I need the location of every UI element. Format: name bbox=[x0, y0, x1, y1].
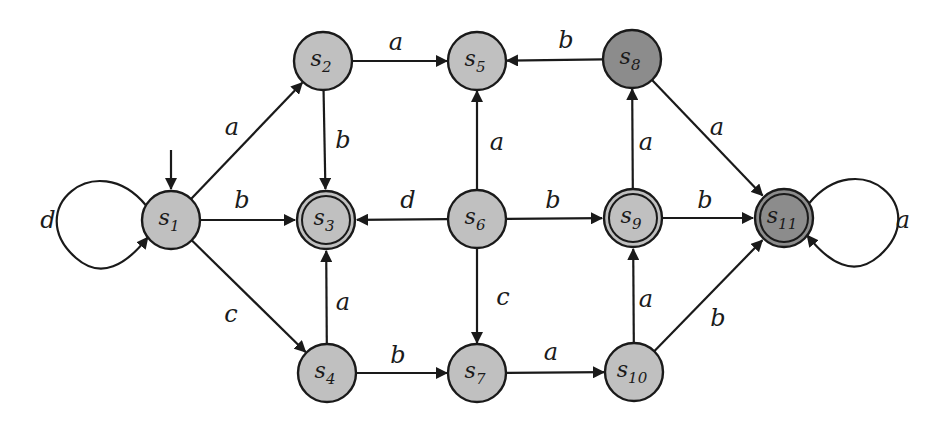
state-s9: s9 bbox=[604, 189, 662, 247]
transition-label-s10-s11: b bbox=[710, 304, 725, 332]
transition-s9-s8 bbox=[632, 89, 633, 189]
transition-s7-s10 bbox=[506, 372, 604, 373]
transition-s6-s9 bbox=[506, 218, 602, 219]
transition-label-s8-s11: a bbox=[710, 113, 724, 141]
transition-s8-s5 bbox=[507, 59, 603, 60]
state-s1: s1 bbox=[142, 191, 200, 249]
transition-label-s11-s11: a bbox=[896, 206, 910, 234]
transition-label-s4-s3: a bbox=[336, 288, 350, 316]
transition-label-s1-s2: a bbox=[225, 113, 239, 141]
state-s6: s6 bbox=[448, 190, 506, 248]
transition-label-s7-s10: a bbox=[544, 338, 558, 366]
transition-label-s8-s5: b bbox=[558, 26, 573, 54]
state-s2: s2 bbox=[294, 32, 352, 90]
transition-label-s9-s11: b bbox=[697, 186, 712, 214]
state-s8: s8 bbox=[603, 30, 661, 88]
states-layer: s1s2s3s4s5s6s7s8s9s10s11 bbox=[142, 30, 813, 402]
transition-label-s6-s3: d bbox=[400, 186, 415, 214]
transition-label-s9-s8: a bbox=[639, 128, 653, 156]
transition-label-s6-s7: c bbox=[496, 283, 509, 311]
transition-s10-s11 bbox=[654, 240, 762, 351]
transition-label-s4-s7: b bbox=[390, 341, 405, 369]
transition-s6-s3 bbox=[357, 219, 448, 220]
transition-s1-s2 bbox=[191, 83, 302, 199]
transition-s8-s11 bbox=[652, 80, 763, 196]
transition-label-s6-s5: a bbox=[490, 128, 504, 156]
transition-s4-s3 bbox=[326, 251, 327, 344]
transition-s1-s4 bbox=[192, 240, 306, 352]
transition-label-s10-s9: a bbox=[639, 285, 653, 313]
automaton-diagram: s1s2s3s4s5s6s7s8s9s10s11 abcdababadbcaba… bbox=[0, 0, 949, 427]
transition-label-s2-s3: b bbox=[335, 126, 350, 154]
state-s4: s4 bbox=[298, 344, 356, 402]
state-s10: s10 bbox=[605, 343, 663, 401]
state-s5: s5 bbox=[448, 32, 506, 90]
transition-s11-s11 bbox=[807, 179, 898, 267]
state-s3: s3 bbox=[297, 191, 355, 249]
transition-s1-s1 bbox=[57, 181, 148, 269]
transition-label-s2-s5: a bbox=[389, 28, 403, 56]
transition-label-s1-s4: c bbox=[224, 300, 237, 328]
transition-s2-s3 bbox=[324, 90, 326, 189]
state-s11: s11 bbox=[755, 189, 813, 247]
transition-s10-s9 bbox=[633, 249, 634, 343]
transition-label-s6-s9: b bbox=[545, 186, 560, 214]
state-s7: s7 bbox=[448, 344, 506, 402]
transition-label-s1-s1: d bbox=[40, 206, 55, 234]
transition-label-s1-s3: b bbox=[234, 186, 249, 214]
